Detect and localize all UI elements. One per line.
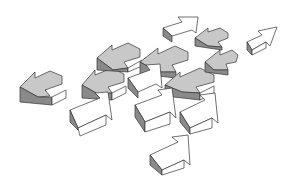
arrow-left-6 xyxy=(195,28,228,50)
arrows-svg xyxy=(0,0,293,189)
arrow-up-right-6 xyxy=(247,27,277,55)
arrow-left-3 xyxy=(97,43,142,72)
arrow-left-7 xyxy=(205,50,238,75)
arrow-up-right-5 xyxy=(163,17,198,42)
arrow-left-1 xyxy=(20,71,66,105)
arrow-up-right-2 xyxy=(135,88,176,132)
arrows-illustration xyxy=(0,0,293,189)
arrow-up-right-4 xyxy=(150,135,190,175)
